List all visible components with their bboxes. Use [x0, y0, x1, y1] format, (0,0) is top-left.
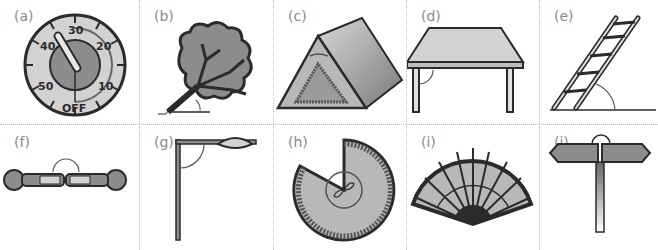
tree-icon	[140, 0, 273, 124]
pie-icon	[274, 126, 406, 250]
street-lamp-icon	[140, 126, 273, 250]
table-icon	[407, 0, 539, 124]
panel-i: (i)	[407, 126, 540, 250]
svg-text:40: 40	[40, 40, 56, 53]
panel-d: (d)	[407, 0, 540, 124]
panel-g: (g)	[140, 126, 273, 250]
divider	[0, 124, 658, 125]
panel-h: (h)	[274, 126, 407, 250]
ladder-icon	[540, 0, 658, 124]
tent-icon	[274, 0, 406, 124]
svg-text:20: 20	[96, 40, 112, 53]
svg-text:50: 50	[38, 80, 54, 93]
svg-text:10: 10	[98, 80, 114, 93]
panel-e: (e)	[540, 0, 658, 124]
panel-b: (b)	[140, 0, 273, 124]
svg-text:30: 30	[68, 24, 84, 37]
people-icon	[0, 126, 139, 250]
signpost-icon	[540, 126, 658, 250]
panel-a: (a) 30 20 10 OFF 50 40	[0, 0, 133, 124]
panel-f: (f)	[0, 126, 133, 250]
panel-c: (c)	[274, 0, 407, 124]
fan-icon	[407, 126, 539, 250]
svg-text:OFF: OFF	[62, 102, 86, 115]
timer-icon: 30 20 10 OFF 50 40	[0, 0, 139, 124]
panel-j: (j)	[540, 126, 658, 250]
